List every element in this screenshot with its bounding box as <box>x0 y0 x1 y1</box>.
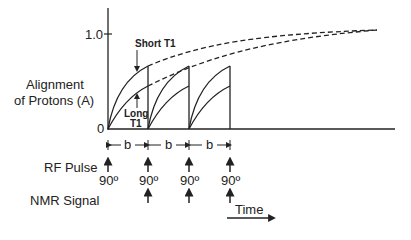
nmr-signal-arrows <box>148 192 230 203</box>
interval-b-2: b <box>165 137 172 152</box>
y-label-line1: Alignment <box>26 77 84 92</box>
short-t1-dashed-curve <box>148 30 377 66</box>
interval-b-3: b <box>206 137 213 152</box>
pulse-angle-4: 90º <box>221 173 240 188</box>
time-label: Time <box>235 202 263 217</box>
interval-b-1: b <box>124 137 131 152</box>
long-t1-dashed-curve <box>148 30 377 86</box>
short-t1-label: Short T1 <box>135 38 176 49</box>
pulse-angle-3: 90º <box>180 173 199 188</box>
y-tick-one: 1.0 <box>85 27 103 42</box>
long-t1-label-line2: T1 <box>130 118 142 129</box>
pulse-angle-2: 90º <box>139 173 158 188</box>
rf-pulse-arrows <box>108 161 230 172</box>
pulse-angle-1: 90º <box>99 173 118 188</box>
y-tick-zero: 0 <box>97 121 104 136</box>
rf-pulse-label: RF Pulse <box>44 160 97 175</box>
short-t1-curves <box>108 66 230 129</box>
y-label-line2: of Protons (A) <box>14 93 94 108</box>
nmr-signal-label: NMR Signal <box>30 193 99 208</box>
